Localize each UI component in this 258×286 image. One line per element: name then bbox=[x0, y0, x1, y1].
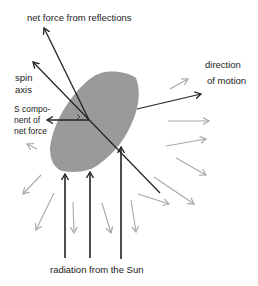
radiation-from-sun-label: radiation from the Sun bbox=[50, 264, 143, 276]
direction-of-motion-label-line2: of motion bbox=[207, 75, 246, 87]
direction-of-motion-arrow bbox=[137, 94, 201, 109]
net-force-label: net force from reflections bbox=[27, 12, 132, 24]
yarkovsky-diagram bbox=[0, 0, 258, 286]
s-component-label-line3: net force bbox=[14, 126, 47, 137]
spin-axis-label-line1: spin bbox=[15, 72, 32, 84]
direction-of-motion-label-line1: direction bbox=[205, 59, 241, 71]
s-component-label-line2: nent of bbox=[14, 115, 40, 126]
s-component-label-line1: S compo- bbox=[14, 104, 50, 115]
spin-axis-label-line2: axis bbox=[15, 84, 32, 96]
